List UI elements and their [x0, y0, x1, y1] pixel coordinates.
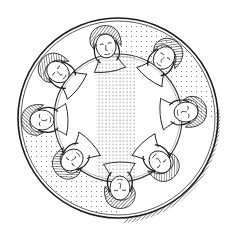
- face-left: [21, 103, 68, 136]
- engraving-illustration: [0, 0, 236, 239]
- face-right: [159, 94, 208, 130]
- plate-drawing: [0, 0, 236, 239]
